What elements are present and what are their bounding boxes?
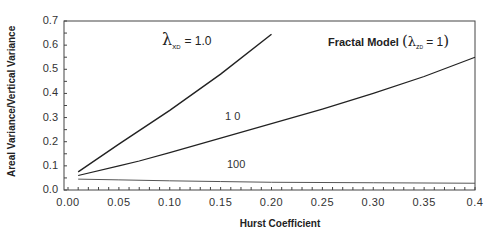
y-tick-label: 0.4 (30, 86, 58, 98)
y-tick-label: 0.2 (30, 135, 58, 147)
y-tick-label: 0.7 (30, 14, 58, 26)
x-tick-label: 0.4 (455, 196, 495, 208)
annotation-100: 100 (227, 158, 245, 170)
chart-title: Fractal Model (λzD = 1) (328, 32, 449, 50)
title-sub2: D (420, 44, 424, 50)
y-tick-label: 0.6 (30, 38, 58, 50)
title-lambda: λ (408, 34, 416, 49)
title-text: Fractal Model (328, 36, 399, 48)
annotation-lambda-1: λxD= 1.0 (162, 30, 212, 51)
x-tick-label: 0.10 (150, 196, 190, 208)
lambda-symbol: λ (162, 30, 172, 49)
lambda-sub2: D (176, 44, 180, 50)
annotation-10: 1 0 (225, 110, 240, 122)
x-axis-label: Hurst Coefficient (210, 218, 350, 229)
y-tick-label: 0.5 (30, 62, 58, 74)
y-axis-label: Areal Variance/Vertical Variance (6, 27, 20, 177)
x-tick-label: 0.00 (48, 196, 88, 208)
x-tick-label: 0.15 (201, 196, 241, 208)
lambda-value: = 1.0 (184, 34, 211, 48)
curve-100 (78, 179, 475, 183)
x-tick-label: 0.05 (99, 196, 139, 208)
data-curves (78, 34, 475, 183)
y-tick-label: 0.3 (30, 111, 58, 123)
x-tick-label: 0.25 (302, 196, 342, 208)
x-tick-label: 0.35 (404, 196, 444, 208)
title-eq: = 1 (426, 35, 443, 49)
curve-10 (78, 57, 475, 175)
x-tick-label: 0.30 (353, 196, 393, 208)
x-tick-label: 0.20 (252, 196, 292, 208)
y-tick-label: 0.0 (30, 183, 58, 195)
y-tick-label: 0.1 (30, 159, 58, 171)
